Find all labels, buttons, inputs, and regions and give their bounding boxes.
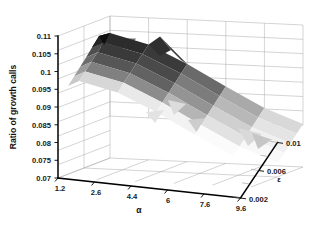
y-tick-label: 0.105 — [32, 50, 52, 59]
x-tick-label: 4.4 — [127, 192, 138, 201]
x-tick-label: 6 — [166, 196, 170, 205]
x-tick-label: 9.6 — [236, 204, 247, 213]
z-tick-label: 0.002 — [249, 195, 268, 204]
z-tick-label: 0.01 — [286, 139, 302, 148]
y-tick-label: 0.1 — [40, 68, 51, 77]
y-tick-labels: 0.11 0.105 0.1 0.095 0.09 0.085 0.08 0.0… — [32, 32, 52, 183]
x-tick-label: 2.6 — [91, 188, 102, 197]
y-tick-label: 0.095 — [32, 85, 52, 94]
y-tick-label: 0.075 — [32, 156, 52, 165]
plot-canvas: 0.11 0.105 0.1 0.095 0.09 0.085 0.08 0.0… — [0, 0, 318, 227]
x-tick-label: 1.2 — [55, 184, 66, 193]
x-axis-title: α — [136, 205, 142, 215]
z-axis-title: ε — [277, 175, 281, 184]
y-tick-label: 0.09 — [36, 103, 51, 112]
x-tick-label: 7.6 — [200, 200, 211, 209]
y-tick-label: 0.07 — [36, 174, 51, 183]
surface-chart-figure: 0.11 0.105 0.1 0.095 0.09 0.085 0.08 0.0… — [0, 0, 318, 227]
y-axis-title: Ratio of growth calls — [8, 65, 18, 150]
y-tick-label: 0.085 — [32, 121, 52, 130]
x-axis-ticks — [55, 178, 241, 202]
y-tick-label: 0.08 — [36, 139, 51, 148]
surface-mesh — [68, 33, 303, 162]
x-axis-line — [58, 178, 241, 198]
y-tick-label: 0.11 — [37, 32, 52, 41]
